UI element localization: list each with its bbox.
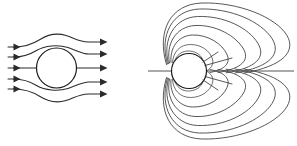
streamline-5 <box>14 89 102 102</box>
figure-svg <box>0 0 297 146</box>
sphere-body <box>37 48 77 88</box>
outlet-arrow-4 <box>100 79 108 86</box>
outlet-arrow-2 <box>100 51 108 58</box>
figure-container <box>0 0 297 146</box>
planet-body <box>172 54 207 89</box>
right-panel-dipole-field <box>148 3 294 139</box>
field-stub-upper-1 <box>203 52 218 62</box>
inlet-arrow-4 <box>14 76 21 83</box>
left-panel-streamline-flow <box>8 34 108 101</box>
inlet-arrow-3 <box>14 65 21 72</box>
field-stub-lower-1 <box>203 80 218 90</box>
outlet-arrow-3 <box>100 65 108 72</box>
inlet-arrow-5 <box>14 86 21 93</box>
inlet-arrow-2 <box>14 54 21 61</box>
inlet-arrow-1 <box>14 44 21 51</box>
streamline-1 <box>14 34 102 47</box>
outlet-arrow-5 <box>100 91 108 98</box>
outlet-arrow-1 <box>100 39 108 46</box>
